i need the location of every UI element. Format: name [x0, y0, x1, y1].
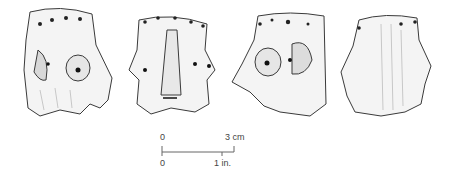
scale-imperial-start: 0: [160, 159, 165, 168]
scale-line: [150, 130, 310, 179]
object-view-1: [0, 0, 120, 130]
object-view-2: [115, 0, 225, 130]
scale-bar: 0 3 cm 0 1 in.: [150, 130, 310, 179]
object-view-4: [325, 0, 451, 130]
object-view-3: [220, 0, 330, 130]
scale-imperial-end: 1 in.: [214, 159, 231, 168]
